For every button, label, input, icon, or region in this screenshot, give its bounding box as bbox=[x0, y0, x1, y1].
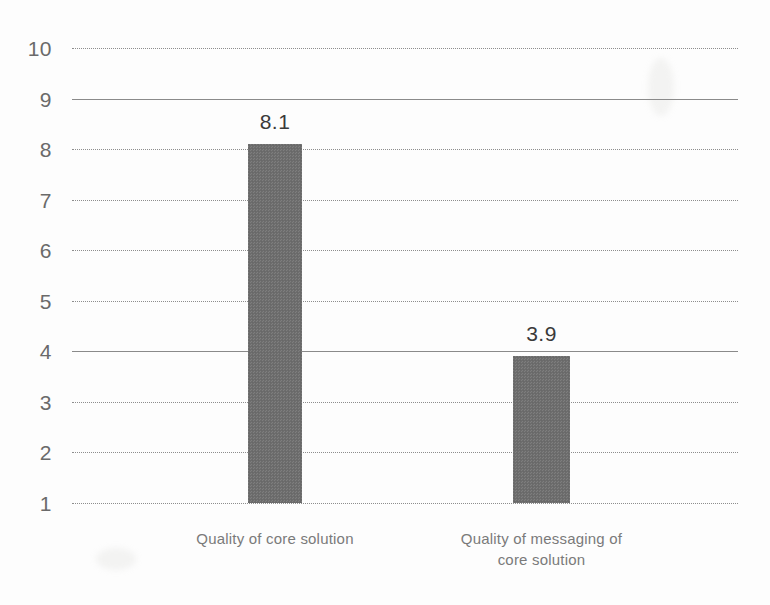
scan-artifact bbox=[96, 548, 136, 570]
bar-value-label: 3.9 bbox=[526, 323, 557, 344]
bar-chart: 10987654321 8.13.9 Quality of core solut… bbox=[0, 0, 770, 605]
plot-area: 8.13.9 bbox=[72, 40, 738, 515]
bar bbox=[248, 144, 302, 503]
y-axis-tick-label: 1 bbox=[6, 493, 52, 514]
y-axis-tick-label: 3 bbox=[6, 391, 52, 412]
y-axis-tick-label: 2 bbox=[6, 442, 52, 463]
gridline-5 bbox=[72, 301, 738, 303]
x-axis-category-label: Quality of core solution bbox=[196, 528, 353, 549]
gridline-10 bbox=[72, 48, 738, 50]
gridline-7 bbox=[72, 200, 738, 202]
y-axis-tick-label: 7 bbox=[6, 189, 52, 210]
gridline-9 bbox=[72, 99, 738, 101]
y-axis-tick-label: 6 bbox=[6, 240, 52, 261]
y-axis-tick-label: 9 bbox=[6, 88, 52, 109]
y-axis-tick-label: 5 bbox=[6, 290, 52, 311]
bar-value-label: 8.1 bbox=[260, 111, 291, 132]
gridline-3 bbox=[72, 402, 738, 404]
y-axis-tick-label: 4 bbox=[6, 341, 52, 362]
x-axis-category-label: Quality of messaging of core solution bbox=[461, 528, 622, 570]
bar bbox=[513, 356, 570, 503]
gridline-6 bbox=[72, 250, 738, 252]
gridline-8 bbox=[72, 149, 738, 151]
y-axis-tick-label: 10 bbox=[6, 38, 52, 59]
y-axis: 10987654321 bbox=[0, 40, 52, 515]
gridline-1 bbox=[72, 503, 738, 505]
gridline-2 bbox=[72, 452, 738, 454]
gridline-4 bbox=[72, 351, 738, 353]
y-axis-tick-label: 8 bbox=[6, 139, 52, 160]
